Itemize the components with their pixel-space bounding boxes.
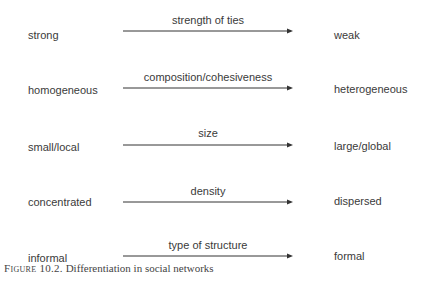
left-pole: concentrated: [28, 196, 92, 208]
diagram-row-strength: strong strength of ties weak: [0, 14, 426, 54]
caption-text: Differentiation in social networks: [63, 262, 214, 274]
diagram-row-composition: homogeneous composition/cohesiveness het…: [0, 71, 426, 111]
dimension-label: density: [123, 185, 293, 197]
right-pole: heterogeneous: [334, 83, 407, 95]
right-pole: weak: [334, 29, 360, 41]
arrow-right-icon: [123, 252, 293, 260]
right-pole: dispersed: [334, 195, 382, 207]
diagram-row-size: small/local size large/global: [0, 127, 426, 167]
figure-caption: Figure 10.2. Differentiation in social n…: [4, 262, 214, 274]
left-pole: homogeneous: [28, 84, 98, 96]
arrow-right-icon: [123, 84, 293, 92]
arrow-right-icon: [123, 198, 293, 206]
dimension-label: strength of ties: [123, 14, 293, 26]
dimension-label: size: [123, 127, 293, 139]
figure-number: Figure 10.2.: [4, 262, 63, 274]
left-pole: small/local: [28, 141, 79, 153]
left-pole: strong: [28, 29, 59, 41]
arrow-right-icon: [123, 141, 293, 149]
dimension-label: type of structure: [123, 239, 293, 251]
diagram-row-density: concentrated density dispersed: [0, 185, 426, 225]
dimension-label: composition/cohesiveness: [123, 71, 293, 83]
arrow-right-icon: [123, 27, 293, 35]
right-pole: formal: [334, 250, 365, 262]
right-pole: large/global: [334, 140, 391, 152]
